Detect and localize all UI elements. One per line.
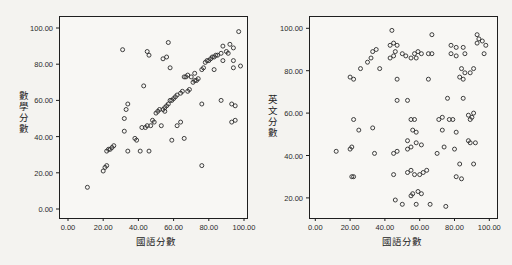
x-tick-label: 0.00 (61, 223, 76, 232)
x-tick-label: 100.00 (478, 223, 501, 232)
x-tick-label: 0.00 (308, 223, 323, 232)
x-tick-label: 20.00 (94, 223, 113, 232)
y-tick-label: 80.00 (34, 60, 53, 69)
y-tick-label: 20.00 (284, 193, 303, 202)
right-x-axis-label: 國語分數 (382, 234, 422, 248)
scatterplot-output-page: 0.0020.0040.0060.0080.00100.000.0020.004… (0, 0, 512, 265)
x-tick-label: 80.00 (445, 223, 464, 232)
y-tick-label: 60.00 (284, 109, 303, 118)
x-tick-label: 20.00 (341, 223, 360, 232)
y-tick-label: 40.00 (34, 132, 53, 141)
x-tick-label: 40.00 (376, 223, 395, 232)
x-tick-label: 40.00 (129, 223, 148, 232)
left-plot-frame (60, 17, 248, 219)
left-y-axis-label: 數學分數 (16, 91, 30, 135)
y-tick-label: 100.00 (30, 24, 53, 33)
x-tick-label: 60.00 (164, 223, 183, 232)
y-tick-label: 20.00 (34, 168, 53, 177)
y-tick-label: 100.00 (280, 24, 303, 33)
right-y-axis-label: 英文分數 (265, 95, 279, 139)
scatter-charts-svg (0, 0, 512, 265)
x-tick-label: 60.00 (410, 223, 429, 232)
y-tick-label: 0.00 (38, 205, 53, 214)
y-tick-label: 80.00 (284, 66, 303, 75)
y-tick-label: 40.00 (284, 151, 303, 160)
left-x-axis-label: 國語分數 (136, 234, 176, 248)
y-tick-label: 60.00 (34, 96, 53, 105)
x-tick-label: 80.00 (199, 223, 218, 232)
x-tick-label: 100.00 (233, 223, 256, 232)
